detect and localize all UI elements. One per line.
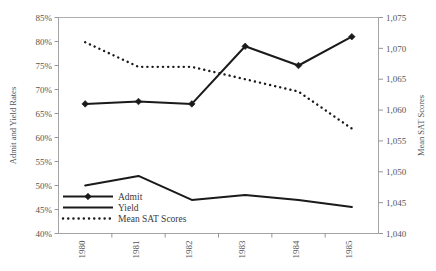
x-axis-tick-label: 1981	[131, 241, 141, 259]
right-axis-tick-label: 1,075	[386, 13, 407, 23]
series-layer	[82, 33, 355, 207]
left-axis-tick-label: 85%	[36, 13, 53, 23]
line-chart: 40%45%50%55%60%65%70%75%80%85% 1,0401,04…	[0, 0, 436, 271]
right-axis-tick-label: 1,050	[386, 167, 407, 177]
chart-container: 40%45%50%55%60%65%70%75%80%85% 1,0401,04…	[0, 0, 436, 271]
left-axis-tick-label: 60%	[36, 133, 53, 143]
series-line	[85, 42, 352, 128]
plot-frame	[59, 18, 379, 234]
left-axis-tick-label: 70%	[36, 85, 53, 95]
right-axis-tick-label: 1,070	[386, 44, 407, 54]
left-axis-tick-label: 55%	[36, 157, 53, 167]
legend-label: Admit	[118, 192, 143, 202]
series-admit	[82, 33, 355, 107]
left-axis-ticks: 40%45%50%55%60%65%70%75%80%85%	[36, 13, 59, 239]
x-axis-tick-label: 1984	[291, 240, 301, 259]
right-axis-tick-label: 1,065	[386, 74, 407, 84]
series-mean-sat-scores	[85, 42, 352, 128]
legend-label: Yield	[118, 203, 139, 213]
x-axis-tick-label: 1980	[77, 240, 87, 259]
right-axis-ticks: 1,0401,0451,0501,0551,0601,0651,0701,075	[379, 13, 407, 239]
x-axis-tick-label: 1985	[344, 240, 354, 259]
chart-legend: AdmitYieldMean SAT Scores	[63, 192, 187, 224]
legend-item: Mean SAT Scores	[63, 214, 187, 224]
right-axis-tick-label: 1,045	[386, 198, 407, 208]
left-axis-tick-label: 40%	[36, 229, 53, 239]
left-axis-title: Admit and Yield Rates	[8, 87, 18, 164]
series-line	[85, 37, 352, 104]
left-axis-tick-label: 75%	[36, 61, 53, 71]
legend-label: Mean SAT Scores	[118, 214, 187, 224]
left-axis-tick-label: 80%	[36, 37, 53, 47]
legend-marker-icon	[85, 193, 92, 200]
data-point-marker	[135, 98, 142, 105]
left-axis-tick-label: 50%	[36, 181, 53, 191]
axis-titles: Admit and Yield RatesMean SAT Scores	[8, 87, 426, 164]
x-axis-tick-label: 1982	[184, 241, 194, 259]
right-axis-tick-label: 1,060	[386, 105, 407, 115]
x-axis-ticks: 198019811982198319841985	[77, 234, 354, 259]
right-axis-tick-label: 1,055	[386, 136, 407, 146]
left-axis-tick-label: 65%	[36, 109, 53, 119]
data-point-marker	[82, 101, 89, 108]
right-axis-title: Mean SAT Scores	[416, 95, 426, 156]
legend-item: Yield	[63, 203, 139, 213]
right-axis-tick-label: 1,040	[386, 229, 407, 239]
legend-item: Admit	[63, 192, 143, 202]
x-axis-tick-label: 1983	[237, 240, 247, 259]
left-axis-tick-label: 45%	[36, 205, 53, 215]
